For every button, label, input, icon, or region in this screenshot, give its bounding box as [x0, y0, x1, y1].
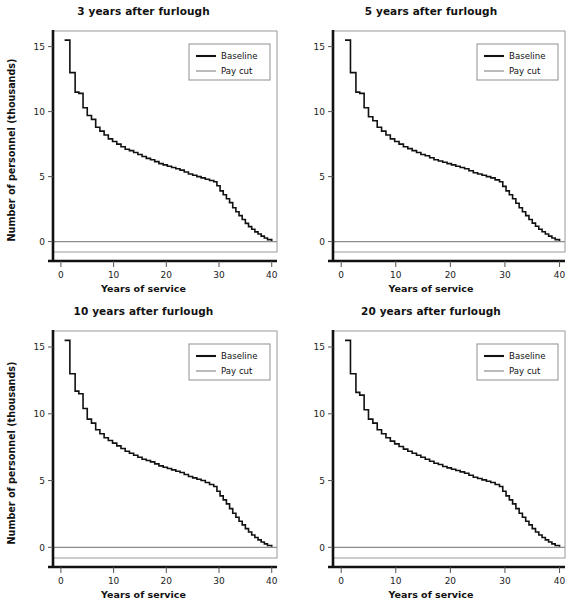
- x-tick-label: 10: [390, 576, 402, 586]
- legend-label-baseline: Baseline: [221, 51, 257, 61]
- y-tick-label: 15: [34, 42, 45, 52]
- chart-panel-5-years: 5 years after furlough Number of personn…: [287, 0, 575, 300]
- x-axis-label: Years of service: [0, 589, 287, 600]
- x-tick-label: 20: [445, 576, 457, 586]
- legend-label-pay-cut: Pay cut: [221, 366, 253, 376]
- x-tick-label: 0: [58, 576, 64, 586]
- legend-label-baseline: Baseline: [509, 351, 545, 361]
- y-tick-label: 5: [319, 476, 325, 486]
- x-tick-label: 30: [213, 576, 225, 586]
- x-tick-label: 20: [161, 576, 173, 586]
- plot-canvas: 051015010203040BaselinePay cut: [0, 300, 287, 606]
- x-tick-label: 30: [213, 270, 225, 280]
- y-tick-label: 0: [39, 237, 45, 247]
- y-tick-label: 0: [39, 543, 45, 553]
- legend-label-pay-cut: Pay cut: [509, 366, 541, 376]
- x-tick-label: 30: [499, 270, 511, 280]
- legend-label-baseline: Baseline: [509, 51, 545, 61]
- x-tick-label: 40: [266, 270, 278, 280]
- x-axis-label: Years of service: [287, 589, 575, 600]
- y-tick-label: 0: [319, 237, 325, 247]
- x-tick-label: 10: [108, 576, 120, 586]
- y-tick-label: 10: [314, 409, 326, 419]
- x-tick-label: 20: [161, 270, 173, 280]
- x-tick-label: 30: [499, 576, 511, 586]
- plot-canvas: 051015010203040BaselinePay cut: [287, 0, 575, 300]
- chart-panel-20-years: 20 years after furlough Number of person…: [287, 300, 575, 606]
- x-tick-label: 10: [108, 270, 120, 280]
- chart-panel-3-years: 3 years after furlough Number of personn…: [0, 0, 287, 300]
- x-tick-label: 40: [266, 576, 278, 586]
- y-tick-label: 5: [319, 172, 325, 182]
- y-tick-label: 0: [319, 543, 325, 553]
- x-tick-label: 40: [554, 270, 566, 280]
- y-tick-label: 10: [34, 107, 46, 117]
- y-tick-label: 10: [34, 409, 46, 419]
- x-axis-label: Years of service: [0, 283, 287, 294]
- x-tick-label: 20: [445, 270, 457, 280]
- x-axis-label: Years of service: [287, 283, 575, 294]
- plot-canvas: 051015010203040BaselinePay cut: [287, 300, 575, 606]
- y-tick-label: 15: [34, 342, 45, 352]
- legend-label-baseline: Baseline: [221, 351, 257, 361]
- y-tick-label: 5: [39, 172, 45, 182]
- x-tick-label: 0: [58, 270, 64, 280]
- plot-canvas: 051015010203040BaselinePay cut: [0, 0, 287, 300]
- x-tick-label: 0: [338, 270, 344, 280]
- x-tick-label: 10: [390, 270, 402, 280]
- y-tick-label: 10: [314, 107, 326, 117]
- y-tick-label: 15: [314, 342, 325, 352]
- x-tick-label: 40: [554, 576, 566, 586]
- y-tick-label: 5: [39, 476, 45, 486]
- figure-grid: 3 years after furlough Number of personn…: [0, 0, 575, 606]
- chart-panel-10-years: 10 years after furlough Number of person…: [0, 300, 287, 606]
- legend-label-pay-cut: Pay cut: [221, 66, 253, 76]
- x-tick-label: 0: [338, 576, 344, 586]
- y-tick-label: 15: [314, 42, 325, 52]
- legend-label-pay-cut: Pay cut: [509, 66, 541, 76]
